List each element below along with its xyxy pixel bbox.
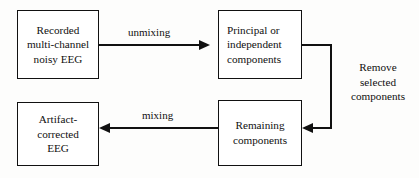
node-remaining-line-2: components <box>233 133 287 148</box>
node-artifact-line-1: Artifact- <box>39 112 78 127</box>
edge-remove-vertical-segment <box>330 44 332 129</box>
node-artifact-line-2: corrected <box>37 127 79 142</box>
edge-remove-bottom-segment <box>313 127 332 129</box>
edge-remove-arrowhead-icon <box>302 123 313 133</box>
edge-unmixing-line <box>99 44 200 46</box>
edge-mixing-arrowhead-icon <box>99 123 110 133</box>
edge-unmixing-arrowhead-icon <box>199 40 210 50</box>
edge-remove-top-segment <box>301 44 332 46</box>
annotation-remove-line-2: selected <box>338 75 418 90</box>
node-recorded-line-3: noisy EEG <box>34 52 83 67</box>
edge-mixing-line <box>110 127 219 129</box>
node-artifact-corrected-eeg: Artifact- corrected EEG <box>17 102 99 166</box>
annotation-remove-line-3: components <box>338 89 418 104</box>
node-remaining-line-1: Remaining <box>235 118 284 133</box>
flowchart-diagram: Recorded multi-channel noisy EEG Princip… <box>0 0 419 178</box>
node-components-line-2: independent <box>227 37 282 52</box>
node-artifact-line-3: EEG <box>47 141 69 156</box>
node-recorded-line-1: Recorded <box>37 23 80 38</box>
node-recorded-multichannel-noisy-eeg: Recorded multi-channel noisy EEG <box>17 10 99 79</box>
node-components-line-1: Principal or <box>227 23 280 38</box>
annotation-remove-selected-components: Remove selected components <box>338 60 418 104</box>
edge-unmixing-label: unmixing <box>128 26 170 38</box>
node-components-line-3: components <box>227 52 281 67</box>
annotation-remove-line-1: Remove <box>338 60 418 75</box>
node-remaining-components: Remaining components <box>218 100 302 166</box>
node-principal-independent-components: Principal or independent components <box>218 10 302 79</box>
node-recorded-line-2: multi-channel <box>27 37 89 52</box>
edge-mixing-label: mixing <box>142 109 173 121</box>
